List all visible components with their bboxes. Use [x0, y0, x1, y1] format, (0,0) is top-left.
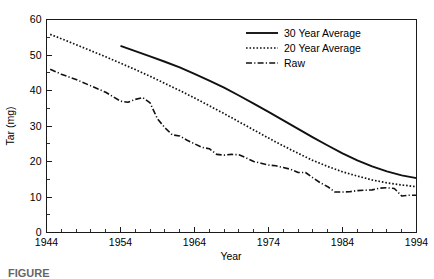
y-tick-label: 60 [30, 13, 42, 25]
legend-label-30-year-average: 30 Year Average [284, 27, 361, 39]
x-axis-title: Year [220, 250, 242, 262]
x-tick-label: 1944 [35, 236, 59, 248]
legend-item-20-year-average: 20 Year Average [246, 42, 361, 54]
series-line-20-year-average [50, 34, 416, 186]
legend-item-30-year-average: 30 Year Average [246, 27, 361, 39]
y-axis-title: Tar (mg) [4, 106, 16, 145]
x-tick-label: 1964 [183, 236, 207, 248]
y-tick-label: 40 [30, 84, 42, 96]
data-series-group [50, 34, 416, 196]
y-tick-label: 50 [30, 49, 42, 61]
legend: 30 Year Average 20 Year Average Raw [246, 27, 361, 69]
x-tick-label: 1954 [109, 236, 133, 248]
y-axis-tick-labels: 0102030405060 [30, 13, 42, 238]
x-tick-label: 1974 [257, 236, 281, 248]
legend-item-raw: Raw [246, 57, 305, 69]
figure-caption-clipped: FIGURE [8, 268, 128, 277]
figure-caption-text: FIGURE [8, 268, 128, 277]
axis-box [47, 20, 417, 233]
y-tick-label: 20 [30, 155, 42, 167]
series-line-30-year-average [121, 46, 417, 178]
tar-vs-year-line-chart: 0102030405060 194419541964197419841994 T… [0, 0, 434, 279]
x-axis-ticks [47, 227, 417, 233]
axes-frame [47, 20, 417, 233]
x-tick-label: 1994 [405, 236, 429, 248]
y-tick-label: 10 [30, 191, 42, 203]
legend-label-20-year-average: 20 Year Average [284, 42, 361, 54]
legend-label-raw: Raw [284, 57, 305, 69]
x-axis-tick-labels: 194419541964197419841994 [35, 236, 429, 248]
figure-container: 0102030405060 194419541964197419841994 T… [0, 0, 434, 279]
x-tick-label: 1984 [331, 236, 355, 248]
y-axis-ticks [47, 20, 53, 233]
y-tick-label: 30 [30, 120, 42, 132]
